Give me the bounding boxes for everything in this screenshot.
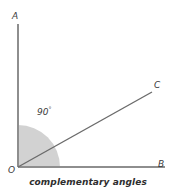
complementary-angles-figure: A B C O 90° complementary angles xyxy=(0,0,176,194)
degree-symbol: ° xyxy=(48,105,51,112)
angle-measure-value: 90 xyxy=(37,107,48,117)
ray-oc-line xyxy=(18,92,152,167)
vertex-label-o: O xyxy=(8,166,15,175)
right-angle-sector xyxy=(18,125,60,167)
angle-diagram xyxy=(0,0,176,194)
figure-caption: complementary angles xyxy=(0,177,176,187)
vertex-label-c: C xyxy=(154,81,160,90)
angle-measure-label: 90° xyxy=(37,106,51,117)
vertex-label-a: A xyxy=(12,12,18,21)
vertex-label-b: B xyxy=(158,160,164,169)
